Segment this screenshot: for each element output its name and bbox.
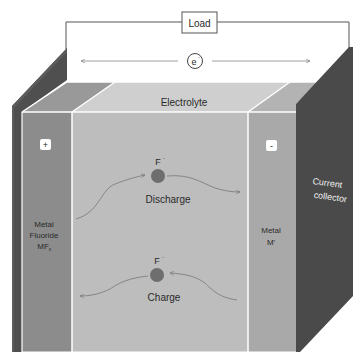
svg-text:M': M' bbox=[267, 238, 276, 247]
circuit-wire-right bbox=[217, 22, 349, 48]
cathode-sign-badge: + bbox=[40, 139, 51, 150]
battery-diagram: Load e - Electrolyte + Metal Fluoride MF… bbox=[0, 0, 363, 362]
fluoride-ion-charge bbox=[150, 268, 164, 282]
svg-text:MF: MF bbox=[37, 242, 49, 251]
electrolyte-label: Electrolyte bbox=[161, 97, 208, 108]
svg-text:Metal: Metal bbox=[34, 220, 54, 229]
electrolyte-front bbox=[72, 112, 248, 352]
svg-text:e: e bbox=[191, 57, 196, 67]
svg-text:+: + bbox=[43, 140, 48, 150]
fluoride-ion-discharge bbox=[151, 169, 165, 183]
svg-text:F: F bbox=[155, 157, 161, 167]
electron-icon: e - bbox=[188, 54, 203, 69]
charge-label: Charge bbox=[148, 292, 181, 303]
load-box: Load bbox=[182, 12, 217, 33]
svg-text:F: F bbox=[154, 256, 160, 266]
svg-text:Metal: Metal bbox=[261, 226, 281, 235]
svg-text:-: - bbox=[270, 141, 273, 151]
anode-sign-badge: - bbox=[266, 140, 277, 151]
svg-text:Fluoride: Fluoride bbox=[30, 231, 59, 240]
circuit-wire bbox=[66, 22, 182, 49]
discharge-label: Discharge bbox=[145, 194, 190, 205]
load-label: Load bbox=[188, 18, 210, 29]
